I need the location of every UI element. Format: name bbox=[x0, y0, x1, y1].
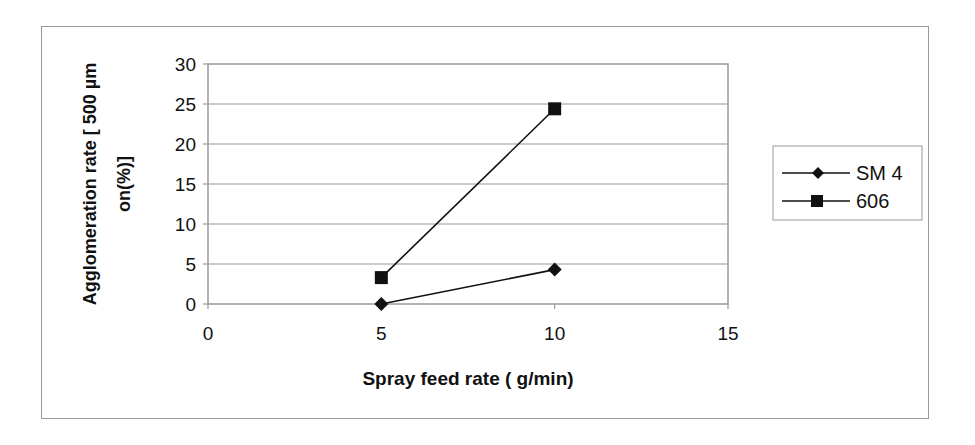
y-axis-ticks: 051015202530 bbox=[175, 54, 208, 315]
y-tick-label: 30 bbox=[175, 54, 196, 75]
x-tick-label: 0 bbox=[203, 323, 214, 344]
line-chart: 051015202530 051015 Spray feed rate ( g/… bbox=[0, 0, 975, 445]
y-tick-label: 15 bbox=[175, 174, 196, 195]
legend: SM 4 606 bbox=[773, 146, 922, 220]
series-line bbox=[381, 270, 554, 304]
diamond-marker-icon bbox=[548, 263, 562, 277]
y-axis-label-line2: on(%)] bbox=[114, 156, 134, 212]
x-tick-label: 10 bbox=[544, 323, 565, 344]
y-tick-label: 25 bbox=[175, 94, 196, 115]
x-tick-label: 15 bbox=[717, 323, 738, 344]
x-axis-ticks: 051015 bbox=[203, 304, 739, 344]
y-tick-label: 10 bbox=[175, 214, 196, 235]
x-tick-label: 5 bbox=[376, 323, 387, 344]
legend-label-sm4: SM 4 bbox=[856, 162, 903, 184]
x-axis-label: Spray feed rate ( g/min) bbox=[362, 368, 573, 389]
y-tick-label: 5 bbox=[185, 254, 196, 275]
y-tick-label: 20 bbox=[175, 134, 196, 155]
series-lines bbox=[374, 102, 561, 311]
series-line bbox=[381, 109, 554, 278]
diamond-marker-icon bbox=[374, 297, 388, 311]
y-axis-label-line1: Agglomeration rate [ 500 µm bbox=[80, 63, 100, 305]
square-marker-icon bbox=[548, 102, 561, 115]
square-marker-icon bbox=[375, 271, 388, 284]
square-marker-icon bbox=[811, 195, 823, 207]
legend-label-606: 606 bbox=[856, 190, 889, 212]
y-tick-label: 0 bbox=[185, 294, 196, 315]
y-axis-label: Agglomeration rate [ 500 µm on(%)] bbox=[80, 63, 134, 305]
gridlines bbox=[208, 104, 728, 264]
